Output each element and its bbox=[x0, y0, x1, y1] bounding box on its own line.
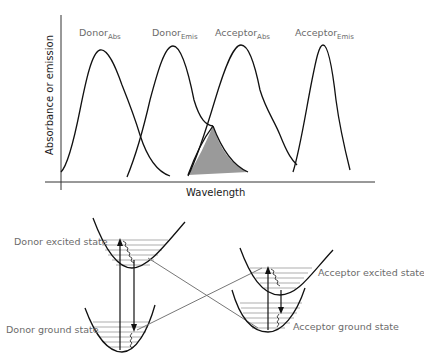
acceptor-emission-curve bbox=[293, 45, 350, 172]
energy-transfer-line-1 bbox=[148, 258, 258, 328]
energy-transfer-line-2 bbox=[137, 268, 262, 330]
donor-absorption-curve bbox=[61, 50, 170, 176]
arrow-up-icon bbox=[117, 238, 123, 246]
donor-ground-state-label: Donor ground state bbox=[6, 324, 99, 335]
acceptor-abs-label: AcceptorAbs bbox=[215, 27, 270, 41]
spectral-overlap-area bbox=[188, 126, 248, 175]
acceptor-excited-state-label: Acceptor excited state bbox=[318, 267, 424, 278]
arrow-down-icon bbox=[131, 324, 137, 332]
acceptor-excited-relaxation-wiggle bbox=[271, 269, 280, 286]
energy-level-diagram: Donor excited state Donor ground state A… bbox=[6, 218, 424, 352]
donor-ground-relaxation-wiggle bbox=[130, 333, 132, 348]
spectra-plot: Absorbance or emission Wavelength DonorA… bbox=[44, 15, 375, 198]
acceptor-ground-relaxation-wiggle bbox=[277, 314, 279, 327]
y-axis-label: Absorbance or emission bbox=[44, 35, 55, 155]
acceptor-ground-state-label: Acceptor ground state bbox=[293, 321, 399, 332]
x-axis-label: Wavelength bbox=[186, 187, 245, 198]
arrow-up-icon bbox=[265, 266, 271, 274]
donor-abs-label: DonorAbs bbox=[79, 27, 121, 41]
fret-diagram: Absorbance or emission Wavelength DonorA… bbox=[0, 0, 424, 363]
acceptor-emis-label: AcceptorEmis bbox=[295, 27, 354, 41]
donor-excited-state-label: Donor excited state bbox=[14, 236, 108, 247]
donor-emis-label: DonorEmis bbox=[152, 27, 198, 41]
